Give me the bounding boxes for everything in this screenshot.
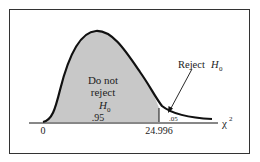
- accept-area: .95: [92, 112, 105, 123]
- axis-origin: 0: [41, 125, 46, 136]
- axis-variable: χ: [221, 117, 227, 129]
- axis-variable-sup: 2: [229, 115, 233, 123]
- reject-label: Reject: [178, 59, 205, 70]
- accept-h-sub: 0: [107, 106, 111, 114]
- axis-critical-value: 24.996: [145, 125, 173, 136]
- accept-label-line1: Do not: [88, 74, 118, 86]
- reject-arrow: [170, 69, 192, 110]
- chi-square-diagram: Do not reject H 0 .95 Reject H 0 .05 0 2…: [0, 0, 260, 162]
- accept-label-line2: reject: [91, 86, 115, 98]
- reject-area: .05: [169, 115, 178, 123]
- reject-h-sub: 0: [219, 65, 223, 73]
